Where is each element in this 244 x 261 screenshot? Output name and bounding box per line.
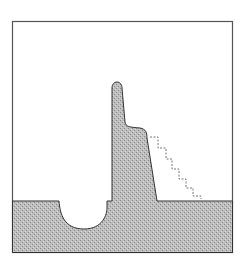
- cross-section-diagram: [0, 0, 244, 261]
